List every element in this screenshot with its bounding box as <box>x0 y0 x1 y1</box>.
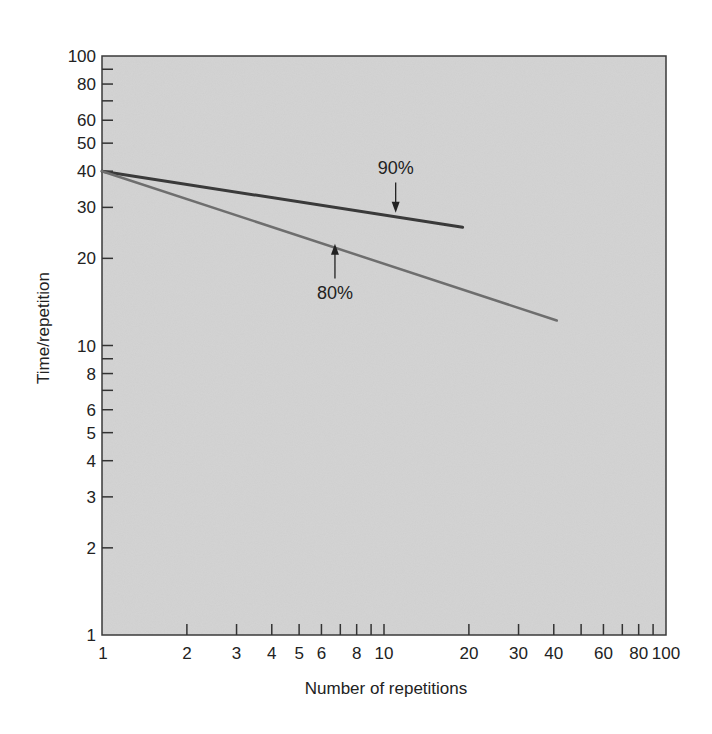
x-tick-label: 3 <box>232 644 241 663</box>
y-tick-label: 8 <box>87 365 96 384</box>
x-tick-label: 80 <box>629 644 648 663</box>
y-tick-label: 20 <box>77 249 96 268</box>
y-tick-label: 30 <box>77 198 96 217</box>
x-tick-label: 5 <box>294 644 303 663</box>
y-tick-label: 2 <box>87 539 96 558</box>
y-tick-label: 6 <box>87 401 96 420</box>
x-tick-label: 6 <box>317 644 326 663</box>
y-axis-title: Time/repetition <box>34 272 53 384</box>
x-tick-label: 40 <box>544 644 563 663</box>
y-tick-label: 3 <box>87 488 96 507</box>
x-tick-label: 1 <box>98 644 107 663</box>
annotation-label: 80% <box>317 283 353 303</box>
y-tick-label: 60 <box>77 111 96 130</box>
x-axis-title: Number of repetitions <box>305 679 468 698</box>
x-tick-label: 100 <box>652 644 680 663</box>
y-tick-label: 1 <box>87 626 96 645</box>
y-tick-label: 50 <box>77 134 96 153</box>
x-tick-label: 4 <box>267 644 276 663</box>
annotation-label: 90% <box>378 158 414 178</box>
y-tick-label: 80 <box>77 75 96 94</box>
y-tick-label: 4 <box>87 452 96 471</box>
x-tick-label: 10 <box>375 644 394 663</box>
y-tick-label: 100 <box>68 47 96 66</box>
x-tick-label: 8 <box>352 644 361 663</box>
x-tick-label: 2 <box>182 644 191 663</box>
plot-texture <box>102 56 666 635</box>
x-tick-label: 20 <box>459 644 478 663</box>
x-tick-label: 30 <box>509 644 528 663</box>
y-tick-label: 10 <box>77 337 96 356</box>
learning-curve-chart: 1234568102030405060801001234568102030406… <box>0 0 712 734</box>
y-tick-label: 5 <box>87 424 96 443</box>
y-tick-label: 40 <box>77 162 96 181</box>
x-tick-label: 60 <box>594 644 613 663</box>
